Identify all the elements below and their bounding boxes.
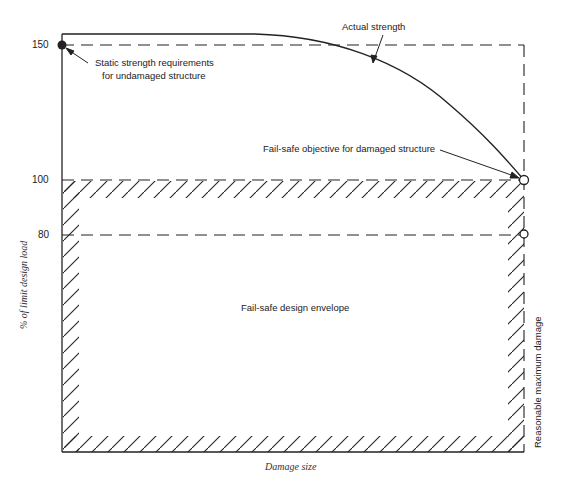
max-damage-label: Reasonable maximum damage <box>532 317 543 448</box>
actual-strength-label: Actual strength <box>342 21 405 32</box>
x-axis-title: Damage size <box>264 461 317 472</box>
static-point-marker <box>58 41 67 50</box>
failsafe-objective-label: Fail-safe objective for damaged structur… <box>263 143 435 154</box>
hatch-region <box>63 181 524 452</box>
tick-80: 80 <box>38 229 50 240</box>
envelope-label: Fail-safe design envelope <box>241 302 349 313</box>
tick-150: 150 <box>32 39 49 50</box>
actual-strength-curve <box>62 34 524 180</box>
static-requirements-label-1: Static strength requirements <box>95 57 214 68</box>
static-requirements-label-2: for undamaged structure <box>102 70 206 81</box>
y-axis-title: % of limit design load <box>18 240 29 329</box>
point-80-marker <box>520 230 528 238</box>
failsafe-point-marker <box>520 176 529 185</box>
tick-100: 100 <box>32 174 49 185</box>
fail-safe-diagram: 150 100 80 Actual strength Static streng… <box>0 0 561 493</box>
